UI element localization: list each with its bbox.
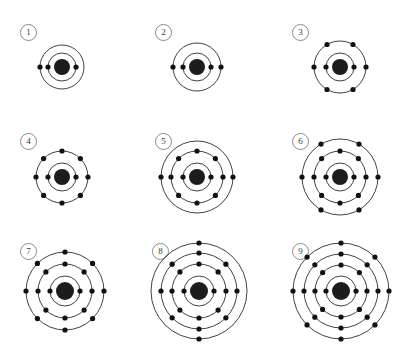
electron — [23, 288, 28, 293]
atom-diagram-figure: 123456789 — [0, 0, 397, 346]
electron — [323, 174, 328, 179]
electron — [62, 315, 67, 320]
atom-nucleus — [332, 282, 350, 300]
electron — [62, 261, 67, 266]
electron — [357, 307, 362, 312]
electron — [324, 87, 329, 92]
electron — [356, 141, 361, 146]
atom-nucleus — [332, 59, 348, 75]
electron — [62, 327, 67, 332]
electron — [363, 64, 368, 69]
electron — [323, 64, 328, 69]
electron — [77, 288, 82, 293]
electron — [208, 174, 213, 179]
atom-nucleus — [56, 282, 74, 300]
electron — [170, 262, 175, 267]
electron — [181, 288, 186, 293]
atom-model-8 — [146, 238, 252, 344]
electron — [320, 307, 325, 312]
electron — [312, 288, 317, 293]
electron — [194, 200, 199, 205]
electron — [35, 288, 40, 293]
electron — [196, 326, 201, 331]
electron — [319, 156, 324, 161]
electron — [372, 254, 377, 259]
electron — [35, 316, 40, 321]
atom-nucleus — [190, 282, 208, 300]
electron — [81, 269, 86, 274]
electron — [177, 307, 182, 312]
electron — [223, 262, 228, 267]
electron — [158, 288, 163, 293]
electron — [89, 288, 94, 293]
electron — [59, 148, 64, 153]
electron — [311, 64, 316, 69]
electron — [323, 288, 328, 293]
electron — [324, 42, 329, 47]
atom-model-5 — [156, 136, 238, 218]
electron — [365, 262, 370, 267]
electron — [337, 200, 342, 205]
electron — [223, 288, 228, 293]
electron — [338, 240, 343, 245]
atom-nucleus — [189, 59, 205, 75]
electron — [353, 288, 358, 293]
electron — [37, 64, 42, 69]
electron — [318, 141, 323, 146]
electron — [350, 87, 355, 92]
electron — [35, 261, 40, 266]
electron — [59, 200, 64, 205]
electron — [311, 174, 316, 179]
electron — [169, 288, 174, 293]
atom-nucleus — [54, 59, 70, 75]
electron — [101, 288, 106, 293]
atom-model-7 — [21, 247, 109, 335]
electron — [180, 174, 185, 179]
electron — [90, 316, 95, 321]
electron — [304, 254, 309, 259]
electron — [375, 288, 380, 293]
electron — [81, 307, 86, 312]
electron — [176, 193, 181, 198]
electron — [290, 288, 295, 293]
atom-nucleus — [332, 169, 348, 185]
electron — [215, 269, 220, 274]
atom-index-label: 1 — [20, 24, 37, 41]
electron — [356, 156, 361, 161]
electron — [47, 288, 52, 293]
electron — [356, 207, 361, 212]
electron — [78, 156, 83, 161]
electron — [351, 64, 356, 69]
electron — [234, 288, 239, 293]
electron — [386, 288, 391, 293]
electron — [45, 64, 50, 69]
electron — [78, 193, 83, 198]
electron — [41, 193, 46, 198]
electron — [170, 64, 175, 69]
electron — [158, 174, 163, 179]
electron — [73, 64, 78, 69]
electron — [211, 288, 216, 293]
electron — [73, 174, 78, 179]
atom-model-4 — [31, 146, 93, 208]
atom-model-9 — [288, 238, 394, 344]
electron — [213, 193, 218, 198]
electron — [196, 336, 201, 341]
electron — [215, 307, 220, 312]
atom-nucleus — [189, 169, 205, 185]
electron — [299, 174, 304, 179]
electron — [194, 148, 199, 153]
atom-nucleus — [54, 169, 70, 185]
electron — [213, 156, 218, 161]
electron — [338, 314, 343, 319]
electron — [208, 64, 213, 69]
electron — [176, 156, 181, 161]
electron — [62, 249, 67, 254]
electron — [43, 269, 48, 274]
electron — [170, 315, 175, 320]
electron — [180, 64, 185, 69]
electron — [177, 269, 182, 274]
electron — [85, 174, 90, 179]
electron — [43, 307, 48, 312]
electron — [319, 193, 324, 198]
